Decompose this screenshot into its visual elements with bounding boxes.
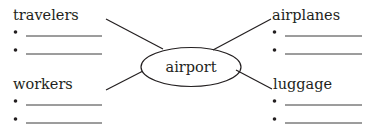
bullet-icon — [14, 117, 18, 121]
center-node: airport — [141, 48, 241, 87]
branch-travelers: travelers — [13, 7, 102, 54]
branch-label-luggage: luggage — [273, 76, 332, 92]
bullet-icon — [273, 48, 277, 52]
connector-travelers — [106, 19, 163, 49]
branch-label-travelers: travelers — [13, 7, 79, 23]
bullet-icon — [273, 117, 277, 121]
branch-workers: workers — [13, 76, 102, 123]
bullet-icon — [14, 99, 18, 103]
branch-label-airplanes: airplanes — [272, 7, 340, 23]
bullet-icon — [273, 99, 277, 103]
connector-workers — [106, 71, 143, 90]
branch-luggage: luggage — [273, 76, 362, 123]
bullet-icon — [273, 30, 277, 34]
connector-airplanes — [213, 19, 271, 50]
center-label: airport — [166, 59, 217, 75]
connector-luggage — [236, 70, 272, 89]
word-web-diagram: airport travelers airplanes workers — [0, 0, 372, 131]
bullet-icon — [14, 48, 18, 52]
bullet-icon — [14, 30, 18, 34]
branch-airplanes: airplanes — [272, 7, 362, 54]
branch-label-workers: workers — [13, 76, 73, 92]
